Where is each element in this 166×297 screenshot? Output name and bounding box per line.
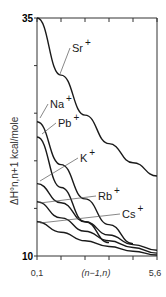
label-na: Na+ <box>50 93 72 110</box>
y-tick-top: 35 <box>22 13 34 24</box>
chart: Sr+Na+Pb+K+Rb+Cs+ 35 10 0,1 (n−1,n) 5,6 … <box>0 0 166 297</box>
curve-na <box>37 122 133 244</box>
y-axis-label: ΔH°n,n+1 kcal/mole <box>9 116 20 205</box>
series-curves <box>37 18 157 255</box>
label-k: K+ <box>80 147 95 164</box>
series-labels: Sr+Na+Pb+K+Rb+Cs+ <box>40 37 143 223</box>
x-tick-left: 0,1 <box>31 268 44 278</box>
axis-ticks <box>34 18 157 260</box>
plot-frame <box>37 18 157 256</box>
label-cs: Cs+ <box>122 203 143 220</box>
curve-cs <box>37 222 157 255</box>
x-axis-label: (n−1,n) <box>82 268 111 278</box>
y-tick-bottom: 10 <box>22 251 34 262</box>
label-sr: Sr+ <box>72 37 91 54</box>
x-tick-right: 5,6 <box>149 268 162 278</box>
label-pb: Pb+ <box>58 112 79 129</box>
label-rb: Rb+ <box>98 185 120 202</box>
